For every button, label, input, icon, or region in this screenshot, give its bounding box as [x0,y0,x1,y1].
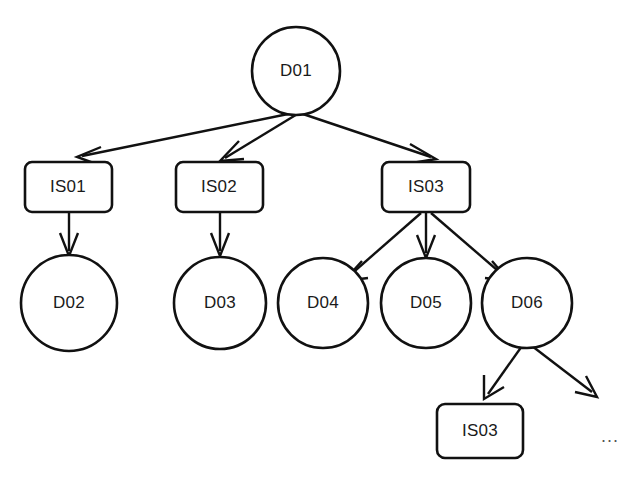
edge-d01-is01 [77,113,293,165]
edge-is03-d05 [417,213,435,258]
d01-label: D01 [280,61,312,80]
diagram-svg: D01 IS01 IS02 IS03 D02 D03 [0,0,636,480]
is03-bottom-label: IS03 [462,421,498,440]
edge-d01-is03 [300,113,436,163]
d05-label: D05 [410,293,442,312]
continuation-ellipsis: ... [601,426,619,446]
edge-d06-is03b [484,346,522,399]
edge-is01-d02 [60,212,78,256]
node-is03[interactable]: IS03 [382,162,470,212]
edge-is02-d03 [211,212,229,256]
edge-d06-continuation [532,346,597,397]
node-is02[interactable]: IS02 [176,162,263,212]
node-d01[interactable]: D01 [252,27,340,115]
is02-label: IS02 [201,177,237,196]
node-d04[interactable]: D04 [278,258,368,348]
node-d02[interactable]: D02 [21,255,117,351]
d03-label: D03 [204,293,236,312]
node-d06[interactable]: D06 [482,258,572,348]
node-d05[interactable]: D05 [381,258,471,348]
node-is03-bottom[interactable]: IS03 [437,404,523,458]
is01-label: IS01 [50,177,86,196]
d02-label: D02 [53,293,85,312]
d04-label: D04 [307,293,339,312]
node-d03[interactable]: D03 [174,257,266,349]
node-is01[interactable]: IS01 [25,162,112,212]
diagram-canvas: D01 IS01 IS02 IS03 D02 D03 [0,0,636,480]
is03-label: IS03 [408,177,444,196]
d06-label: D06 [511,293,543,312]
